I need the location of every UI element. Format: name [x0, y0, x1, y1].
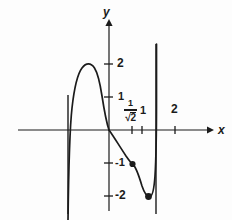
- radical-overbar: 2: [130, 112, 135, 123]
- graph-figure: y x 2 1 -1 -2 1 2 1 √2: [0, 0, 232, 220]
- fraction-denominator: √2: [125, 111, 135, 123]
- point-local-minimum: [145, 193, 152, 200]
- radical-sign: √2: [125, 112, 135, 123]
- y-axis: [105, 19, 112, 211]
- function-plot-svg: [0, 0, 232, 220]
- y-tick-label-minus-2: -2: [115, 189, 126, 201]
- x-axis: [18, 126, 214, 133]
- curve-left-branch: [68, 64, 109, 220]
- y-tick-label-2: 2: [117, 57, 124, 69]
- x-tick-label-inv-sqrt2: 1 √2: [124, 99, 137, 123]
- y-axis-label: y: [103, 6, 110, 18]
- x-tick-label-2: 2: [171, 103, 178, 115]
- x-axis-label: x: [218, 124, 225, 136]
- fraction-numerator: 1: [128, 99, 133, 109]
- x-axis-arrow: [207, 126, 214, 133]
- y-tick-label-minus-1: -1: [115, 157, 125, 168]
- y-axis-arrow: [105, 19, 112, 26]
- point-inflection-inv-sqrt2: [129, 161, 135, 167]
- x-tick-label-1: 1: [140, 105, 146, 116]
